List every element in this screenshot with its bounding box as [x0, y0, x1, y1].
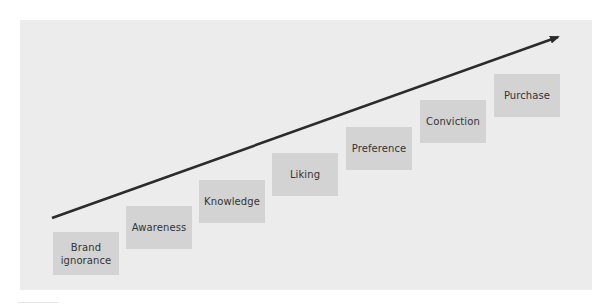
step-label-line2: ignorance: [61, 255, 112, 266]
step-knowledge: Knowledge: [199, 180, 265, 223]
caption-divider: [18, 302, 58, 303]
step-preference: Preference: [346, 127, 412, 170]
step-label: Knowledge: [204, 195, 260, 208]
step-label: Preference: [352, 142, 407, 155]
step-label: Brand ignorance: [61, 241, 112, 267]
step-label: Liking: [290, 168, 320, 181]
step-purchase: Purchase: [494, 74, 560, 117]
step-liking: Liking: [272, 153, 338, 196]
step-label-line1: Brand: [71, 242, 101, 253]
step-brand-ignorance: Brand ignorance: [53, 232, 119, 275]
step-awareness: Awareness: [126, 206, 192, 249]
step-label: Awareness: [132, 221, 187, 234]
step-label: Purchase: [504, 89, 550, 102]
step-conviction: Conviction: [420, 100, 486, 143]
step-label: Conviction: [426, 115, 480, 128]
